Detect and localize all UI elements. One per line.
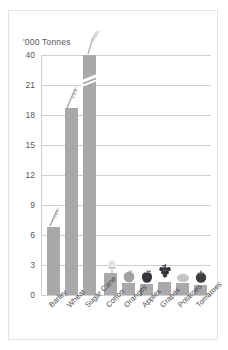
y-tick-label-6: 6 — [9, 230, 35, 240]
sugar-cane-stalk-icon — [81, 29, 103, 55]
bar-sugar-cane[interactable] — [83, 55, 96, 295]
y-tick-label-18: 18 — [9, 110, 35, 120]
y-tick-label-12: 12 — [9, 170, 35, 180]
y-tick-label-3: 3 — [9, 260, 35, 270]
y-axis-title: '000 Tonnes — [23, 37, 71, 47]
bar-barley[interactable] — [47, 227, 60, 295]
potato-icon — [175, 271, 191, 284]
bar-chart: '000 Tonnes 40 21 18 15 12 9 6 3 0 — [9, 11, 219, 341]
wheat-stalk-icon — [63, 85, 81, 109]
grape-cluster-icon — [157, 263, 173, 283]
y-tick-label-21: 21 — [9, 80, 35, 90]
orange-fruit-icon — [122, 269, 136, 284]
gridline-40 — [41, 55, 211, 56]
barley-stalk-icon — [46, 207, 62, 227]
y-axis-line — [41, 55, 42, 295]
bar-wheat[interactable] — [65, 108, 78, 295]
y-tick-label-0: 0 — [9, 290, 35, 300]
y-tick-label-40: 40 — [9, 50, 35, 60]
chart-frame: '000 Tonnes 40 21 18 15 12 9 6 3 0 — [8, 10, 218, 340]
cotton-boll-icon — [105, 259, 119, 274]
y-tick-label-15: 15 — [9, 140, 35, 150]
y-tick-label-9: 9 — [9, 200, 35, 210]
